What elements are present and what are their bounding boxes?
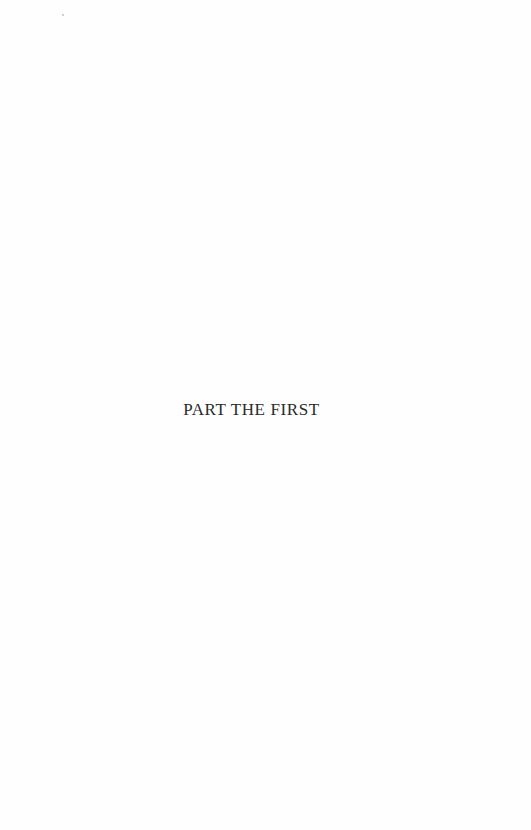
- paper-speck: [62, 14, 64, 16]
- part-heading: PART THE FIRST: [0, 400, 531, 420]
- book-page: PART THE FIRST: [0, 0, 531, 830]
